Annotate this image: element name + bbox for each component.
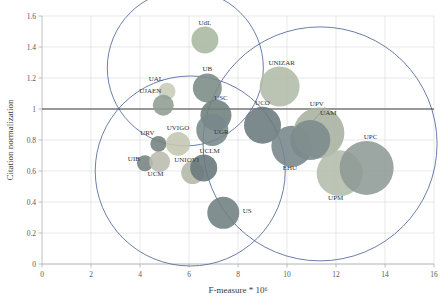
plot-area: 024681012141600.20.40.60.811.21.41.6UdLU… <box>0 0 443 308</box>
x-tick-label-7: 14 <box>381 270 389 279</box>
bubble-label-UCM: UCM <box>148 170 165 178</box>
y-tick-label-7: 1.4 <box>27 43 37 52</box>
x-tick-label-1: 2 <box>89 270 93 279</box>
bubble-UdL[interactable] <box>191 27 218 54</box>
bubble-label-UNIZAR: UNIZAR <box>268 59 295 67</box>
bubble-label-UPM: UPM <box>328 194 344 202</box>
bubble-UVIGO[interactable] <box>166 132 190 156</box>
y-tick-label-8: 1.6 <box>27 12 37 21</box>
x-tick-label-6: 12 <box>332 270 340 279</box>
y-axis-title: Citation normalization <box>5 99 15 181</box>
bubble-label-UIB: UIB <box>128 155 140 163</box>
bubble-URV[interactable] <box>150 136 166 152</box>
bubble-label-USC: USC <box>214 94 228 102</box>
bubble-label-UAL: UAL <box>149 75 163 83</box>
bubble-UAM[interactable] <box>290 120 330 160</box>
bubble-chart-figure: 024681012141600.20.40.60.811.21.41.6UdLU… <box>0 0 443 308</box>
bubble-US[interactable] <box>207 197 239 229</box>
x-tick-label-4: 8 <box>236 270 240 279</box>
y-tick-label-6: 1.2 <box>27 74 37 83</box>
x-tick-label-2: 4 <box>138 270 142 279</box>
x-tick-label-3: 6 <box>187 270 191 279</box>
bubble-label-URV: URV <box>140 129 154 137</box>
y-tick-label-1: 0.2 <box>27 229 37 238</box>
x-tick-label-8: 16 <box>430 270 438 279</box>
bubble-label-UdL: UdL <box>199 19 212 27</box>
y-tick-label-5: 1 <box>32 105 36 114</box>
bubble-label-UGR: UGR <box>214 128 229 136</box>
bubble-label-UCLM: UCLM <box>200 147 221 155</box>
y-tick-label-4: 0.8 <box>27 136 37 145</box>
bubble-label-UPC: UPC <box>364 133 378 141</box>
bubble-UPC[interactable] <box>340 141 394 195</box>
x-axis-title: F-measure * 10⁶ <box>208 285 267 295</box>
bubble-label-US: US <box>243 207 252 215</box>
bubble-label-UNIOVI: UNIOVI <box>174 156 200 164</box>
x-tick-label-5: 10 <box>283 270 291 279</box>
bubble-label-UAM: UAM <box>320 109 337 117</box>
y-tick-label-2: 0.4 <box>27 198 37 207</box>
bubble-UJAEN[interactable] <box>153 95 174 116</box>
y-tick-label-3: 0.6 <box>27 167 37 176</box>
bubble-label-EHU: EHU <box>283 164 297 172</box>
bubble-label-UPV: UPV <box>310 100 324 108</box>
bubble-label-UCO: UCO <box>255 99 270 107</box>
bubble-label-UJAEN: UJAEN <box>139 87 161 95</box>
y-tick-label-0: 0 <box>32 260 36 269</box>
bubble-label-UB: UB <box>203 65 213 73</box>
x-tick-label-0: 0 <box>40 270 44 279</box>
bubble-label-UVIGO: UVIGO <box>167 124 190 132</box>
